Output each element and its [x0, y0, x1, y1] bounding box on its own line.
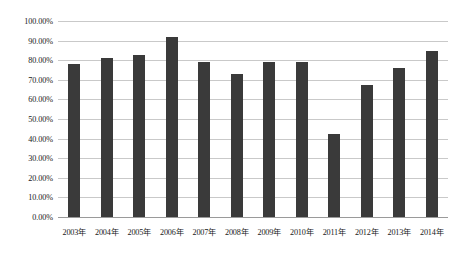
plot-area [58, 21, 448, 217]
x-axis-tick-label: 2003年 [63, 228, 86, 237]
y-axis-tick-label: 20.00% [0, 173, 53, 182]
y-axis-tick-label: 50.00% [0, 115, 53, 124]
y-axis-tick-label: 100.00% [0, 17, 53, 26]
y-axis-tick-label: 70.00% [0, 75, 53, 84]
x-axis-tick-label: 2013年 [388, 228, 411, 237]
x-axis-tick-label: 2014年 [420, 228, 443, 237]
x-axis-tick-label: 2004年 [95, 228, 118, 237]
x-axis-tick-slot: 2010年 [286, 221, 319, 239]
bar-slot [253, 21, 286, 217]
x-axis-tick-slot: 2009年 [253, 221, 286, 239]
x-axis-tick-slot: 2008年 [221, 221, 254, 239]
bar-slot [221, 21, 254, 217]
bar-slot [58, 21, 91, 217]
x-axis-tick-label: 2006年 [160, 228, 183, 237]
x-axis-tick-slot: 2014年 [416, 221, 449, 239]
x-axis-tick-label: 2010年 [290, 228, 313, 237]
x-axis-tick-slot: 2006年 [156, 221, 189, 239]
x-axis-tick-label: 2008年 [225, 228, 248, 237]
y-axis-tick-label: 40.00% [0, 134, 53, 143]
bar-slot [188, 21, 221, 217]
x-axis-tick-slot: 2013年 [383, 221, 416, 239]
y-axis-tick-label: 10.00% [0, 193, 53, 202]
x-axis-tick-label: 2011年 [323, 228, 346, 237]
y-axis-tick-label: 60.00% [0, 95, 53, 104]
bar[interactable] [361, 85, 373, 217]
bar[interactable] [231, 74, 243, 217]
bar-slot [286, 21, 319, 217]
x-axis-tick-label: 2005年 [128, 228, 151, 237]
bar[interactable] [393, 68, 405, 217]
x-axis-tick-slot: 2004年 [91, 221, 124, 239]
bar-slot [416, 21, 449, 217]
y-axis-tick-label: 30.00% [0, 154, 53, 163]
bar[interactable] [101, 58, 113, 217]
x-axis-tick-slot: 2011年 [318, 221, 351, 239]
bar[interactable] [133, 55, 145, 217]
bar-slot [318, 21, 351, 217]
bar[interactable] [198, 62, 210, 217]
x-axis-tick-label: 2012年 [355, 228, 378, 237]
bar-slot [91, 21, 124, 217]
x-axis-labels: 2003年2004年2005年2006年2007年2008年2009年2010年… [58, 221, 448, 239]
bar[interactable] [166, 37, 178, 217]
y-axis-tick-label: 90.00% [0, 36, 53, 45]
y-axis-tick-label: 0.00% [0, 213, 53, 222]
bars-container [58, 21, 448, 217]
x-axis-tick-slot: 2003年 [58, 221, 91, 239]
bar-chart: 100.00%90.00%80.00%70.00%60.00%50.00%40.… [0, 0, 465, 257]
bar[interactable] [426, 51, 438, 217]
x-axis-tick-slot: 2012年 [351, 221, 384, 239]
x-axis-tick-label: 2007年 [193, 228, 216, 237]
y-axis-labels: 100.00%90.00%80.00%70.00%60.00%50.00%40.… [0, 0, 53, 257]
x-axis-tick-slot: 2005年 [123, 221, 156, 239]
bar[interactable] [68, 64, 80, 217]
bar-slot [351, 21, 384, 217]
bar[interactable] [263, 62, 275, 217]
x-axis-tick-slot: 2007年 [188, 221, 221, 239]
axis-baseline [58, 217, 448, 218]
bar[interactable] [296, 62, 308, 217]
bar-slot [123, 21, 156, 217]
y-axis-tick-label: 80.00% [0, 56, 53, 65]
bar[interactable] [328, 134, 340, 217]
bar-slot [156, 21, 189, 217]
x-axis-tick-label: 2009年 [258, 228, 281, 237]
bar-slot [383, 21, 416, 217]
